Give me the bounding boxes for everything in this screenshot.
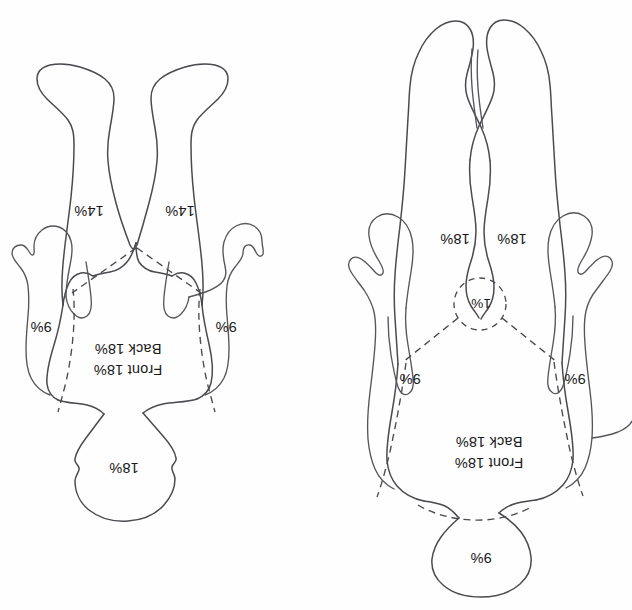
adult-right-arm-forearm-extension — [592, 421, 632, 438]
child-hip-divider-left — [72, 248, 136, 293]
adult-torso-front-label: Front 18% — [455, 455, 524, 471]
child-left-arm-inner-outline — [66, 262, 91, 318]
child-right-arm-label: 9% — [215, 319, 236, 335]
adult-right-leg-label: 18% — [497, 231, 527, 247]
adult-body-diagram: 9% 9% 9% 18% 18% 1% Back 18% Front 18% — [349, 20, 632, 597]
adult-hip-divider-right — [502, 318, 557, 362]
child-left-leg-label: 14% — [74, 203, 104, 219]
child-torso-back-label: Back 18% — [95, 341, 162, 357]
adult-hip-divider-left — [403, 318, 458, 362]
adult-left-arm-label: 9% — [399, 371, 420, 387]
adult-leg-cleft-outline — [477, 50, 483, 128]
child-neck-right-outline — [143, 399, 197, 413]
adult-left-leg-inner-outline — [481, 161, 494, 319]
adult-neck-right-outline — [499, 500, 536, 513]
child-right-arm-inner-outline — [164, 262, 189, 318]
adult-left-arm-outline — [349, 214, 413, 489]
child-left-arm-label: 9% — [30, 319, 51, 335]
child-left-arm-outline — [12, 226, 72, 395]
adult-neck-divider — [418, 505, 533, 520]
adult-right-arm-outline — [548, 213, 612, 488]
child-hip-divider-right — [137, 248, 201, 293]
child-right-leg-outline — [172, 273, 202, 305]
adult-left-leg-label: 18% — [440, 231, 470, 247]
adult-head-label: 9% — [470, 550, 491, 566]
child-torso-front-label: Front 18% — [94, 362, 163, 378]
child-neck-left-outline — [58, 400, 104, 414]
adult-torso-back-label: Back 18% — [456, 434, 523, 450]
child-right-leg-lateral-outline — [137, 64, 228, 305]
child-left-leg-inner-outline — [93, 243, 136, 276]
child-right-leg-inner-outline — [136, 243, 172, 276]
burn-chart-diagram: 18% 9% 9% 14% 14% Back 18% Front 18% — [0, 0, 632, 610]
adult-genitalia-label: 1% — [471, 296, 491, 311]
child-head-label: 18% — [109, 460, 139, 476]
child-right-leg-label: 14% — [165, 203, 195, 219]
child-body-diagram: 18% 9% 9% 14% 14% Back 18% Front 18% — [12, 64, 263, 521]
adult-right-arm-label: 9% — [564, 371, 585, 387]
child-left-arm-torso-divider — [58, 289, 74, 412]
